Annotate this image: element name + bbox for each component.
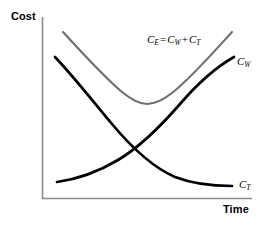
total-cost-equation-annotation: CE=CW+CT	[147, 33, 200, 45]
series-label-ct-sub: T	[246, 183, 250, 192]
equation-equals: =	[159, 33, 167, 45]
equation-ct-sub: T	[196, 38, 200, 47]
cost-time-chart: Cost Time CE=CW+CT CW CT	[0, 0, 278, 229]
series-label-cw: CW	[237, 55, 251, 67]
equation-ce-sub: E	[154, 38, 159, 47]
series-line-cw	[57, 57, 234, 182]
x-axis-title: Time	[223, 203, 249, 215]
chart-plot-area	[0, 0, 278, 229]
series-label-cw-sub: W	[244, 60, 250, 69]
equation-plus: +	[181, 33, 189, 45]
series-label-ct: CT	[239, 178, 251, 190]
equation-cw-base: C	[167, 33, 174, 45]
equation-cw-sub: W	[175, 38, 181, 47]
y-axis-title: Cost	[11, 10, 36, 22]
